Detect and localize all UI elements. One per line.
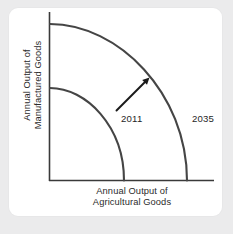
- growth-arrow-icon: [117, 78, 150, 111]
- ppf-curve-2035: [50, 24, 187, 181]
- x-axis-title: Annual Output of Agricultural Goods: [49, 186, 215, 209]
- curve-label-2035: 2035: [192, 113, 214, 124]
- ppf-curve-2011: [50, 88, 124, 181]
- y-axis-title: Annual Output of Manufactured Goods: [22, 5, 45, 165]
- curve-label-2011: 2011: [121, 113, 142, 124]
- y-axis-title-wrapper: Annual Output of Manufactured Goods: [22, 5, 50, 165]
- figure-root: Annual Output of Agricultural Goods Annu…: [0, 0, 233, 234]
